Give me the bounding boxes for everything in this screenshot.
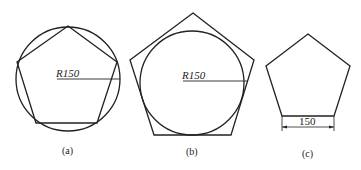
caption-c: (c) (302, 148, 313, 160)
arrow-left-icon (282, 126, 287, 129)
figure-c: 150 (c) (266, 34, 350, 160)
radius-label: R150 (181, 69, 206, 81)
pentagon-construction-diagram: R150 (a) R150 (b) 150 (c) (0, 0, 361, 170)
radius-label: R150 (55, 67, 80, 79)
caption-a: (a) (62, 145, 73, 157)
side-length-label: 150 (299, 115, 316, 127)
caption-b: (b) (186, 146, 198, 158)
arrow-right-icon (329, 126, 334, 129)
pentagon (266, 34, 350, 116)
inscribed-circle (140, 31, 244, 135)
figure-b: R150 (b) (130, 13, 254, 158)
figure-a: R150 (a) (16, 26, 120, 157)
